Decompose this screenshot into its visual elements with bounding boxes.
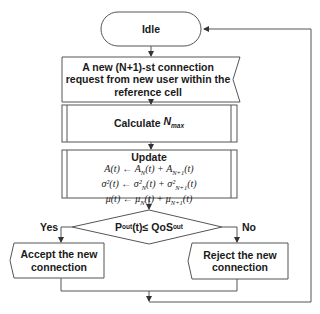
decision-p: P <box>115 221 122 234</box>
calculate-label: Calculate <box>114 117 164 130</box>
accept-node: Accept the new connection <box>14 243 104 278</box>
update-node: Update A(t) ← AN(t) + AN+1(t) σ²(t) ← σ²… <box>67 151 231 197</box>
accept-line-2: connection <box>31 261 87 274</box>
decision-node: Pout(t)≤ QoSout <box>90 214 208 240</box>
update-formula-2: σ²(t) ← σ²N(t) + σ²N+1(t) <box>101 178 196 193</box>
decision-mid: (t)≤ QoS <box>132 221 173 234</box>
reject-line-1: Reject the new <box>203 249 277 262</box>
no-edge-label: No <box>242 221 256 233</box>
update-formula-3: μ(t) ← μN(t) + μN+1(t) <box>106 193 193 208</box>
yes-edge-label: Yes <box>40 221 58 233</box>
request-line-2: request from new user within the <box>66 73 231 86</box>
idle-terminal: Idle <box>101 12 201 46</box>
reject-line-2: connection <box>212 261 268 274</box>
calculate-node: Calculate Nmax <box>67 105 231 142</box>
update-formula-1: A(t) ← AN(t) + AN+1(t) <box>104 163 193 178</box>
update-title: Update <box>131 151 167 163</box>
accept-line-1: Accept the new <box>20 248 97 261</box>
calculate-var-sub: max <box>171 122 184 129</box>
idle-label: Idle <box>142 23 160 36</box>
request-line-3: reference cell <box>114 86 182 99</box>
request-node: A new (N+1)-st connection request from n… <box>62 57 234 102</box>
decision-q-sub: out <box>173 221 183 234</box>
decision-p-sub: out <box>122 221 132 234</box>
reject-node: Reject the new connection <box>192 243 288 279</box>
request-line-1: A new (N+1)-st connection <box>82 61 214 74</box>
calculate-var: Nmax <box>164 115 185 133</box>
